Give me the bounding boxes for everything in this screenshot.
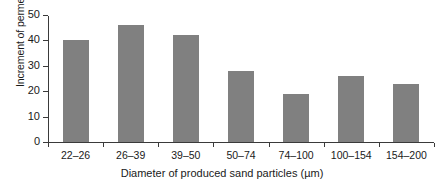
y-tick-label: 20 xyxy=(28,84,40,97)
bar xyxy=(338,76,364,142)
y-tick-label: 30 xyxy=(28,59,40,72)
x-tick xyxy=(434,143,435,147)
y-tick: 20 xyxy=(43,91,48,92)
x-tick-label: 100–154 xyxy=(321,149,381,162)
x-tick-label: 154–200 xyxy=(376,149,436,162)
y-tick-label: 0 xyxy=(34,135,40,148)
x-tick-label: 39–50 xyxy=(156,149,216,162)
bar xyxy=(63,40,89,142)
x-tick-label: 74–100 xyxy=(266,149,326,162)
plot-area: 01020304050 xyxy=(48,16,434,143)
bar xyxy=(393,84,419,142)
y-tick-label: 50 xyxy=(28,8,40,21)
y-axis-line xyxy=(48,16,49,143)
x-tick xyxy=(269,143,270,147)
x-tick xyxy=(379,143,380,147)
x-tick-label: 26–39 xyxy=(101,149,161,162)
y-tick-label: 10 xyxy=(28,110,40,123)
y-tick-label: 40 xyxy=(28,33,40,46)
bar xyxy=(283,94,309,142)
x-tick xyxy=(213,143,214,147)
bar-chart: Increment of permeability (µm) 010203040… xyxy=(0,0,444,184)
x-tick-label: 50–74 xyxy=(211,149,271,162)
x-tick-label: 22–26 xyxy=(46,149,106,162)
x-tick xyxy=(103,143,104,147)
y-tick: 30 xyxy=(43,66,48,67)
x-axis-line xyxy=(48,142,434,143)
y-tick: 40 xyxy=(43,40,48,41)
x-tick xyxy=(158,143,159,147)
x-axis-title: Diameter of produced sand particles (µm) xyxy=(0,166,444,180)
x-tick xyxy=(48,143,49,147)
bar xyxy=(228,71,254,142)
y-tick: 10 xyxy=(43,117,48,118)
x-tick xyxy=(324,143,325,147)
y-axis-title: Increment of permeability (µm) xyxy=(13,0,27,87)
bar xyxy=(173,35,199,142)
bar xyxy=(118,25,144,142)
y-tick: 50 xyxy=(43,15,48,16)
